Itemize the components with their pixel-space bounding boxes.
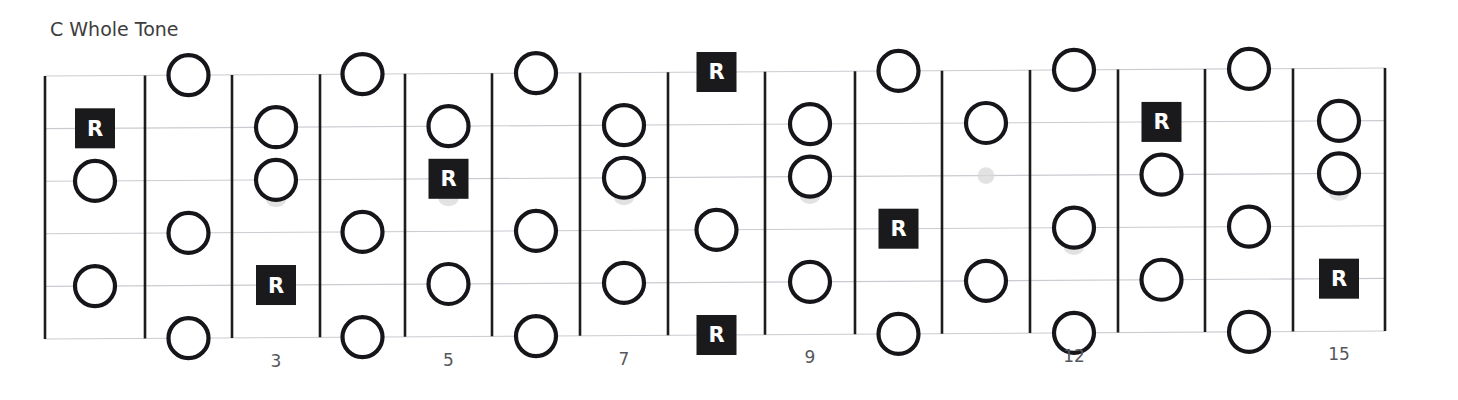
root-letter: R xyxy=(1331,267,1347,291)
scale-note-marker-s3-f3[interactable] xyxy=(256,160,296,200)
scale-note-marker-s4-f2[interactable] xyxy=(169,213,209,253)
scale-note-marker-s5-f11[interactable] xyxy=(966,261,1006,301)
string-line-3 xyxy=(45,173,1385,181)
root-note-marker-s5-f15[interactable]: R xyxy=(1319,259,1359,299)
scale-note-marker-s2-f3[interactable] xyxy=(256,107,296,147)
root-letter: R xyxy=(87,117,103,141)
root-note-marker-s3-f5[interactable]: R xyxy=(429,159,469,199)
fret-number-label-7: 7 xyxy=(619,349,630,369)
root-letter: R xyxy=(890,217,906,241)
string-line-2 xyxy=(45,121,1385,129)
string-line-5 xyxy=(45,278,1385,286)
scale-note-marker-s4-f4[interactable] xyxy=(343,212,383,252)
fret-wires-group xyxy=(45,68,1385,339)
fret-number-label-5: 5 xyxy=(443,350,454,370)
scale-note-marker-s1-f6[interactable] xyxy=(516,53,556,93)
scale-note-marker-s3-f9[interactable] xyxy=(790,157,830,197)
scale-note-marker-s3-f1[interactable] xyxy=(75,161,115,201)
root-letter: R xyxy=(1153,110,1169,134)
scale-note-marker-s5-f7[interactable] xyxy=(604,263,644,303)
root-letter: R xyxy=(440,167,456,191)
scale-note-marker-s5-f5[interactable] xyxy=(429,264,469,304)
root-note-marker-s2-f1[interactable]: R xyxy=(75,108,115,148)
scale-note-marker-s2-f7[interactable] xyxy=(604,105,644,145)
scale-note-marker-s6-f2[interactable] xyxy=(169,318,209,358)
scale-note-marker-s6-f14[interactable] xyxy=(1229,312,1269,352)
root-note-marker-s2-f13[interactable]: R xyxy=(1142,102,1182,142)
scale-note-marker-s3-f15[interactable] xyxy=(1319,153,1359,193)
scale-note-marker-s6-f10[interactable] xyxy=(879,314,919,354)
scale-note-marker-s6-f4[interactable] xyxy=(343,317,383,357)
scale-note-marker-s4-f8[interactable] xyxy=(697,210,737,250)
scale-note-marker-s4-f12[interactable] xyxy=(1054,208,1094,248)
scale-note-marker-s3-f7[interactable] xyxy=(604,158,644,198)
scale-note-marker-s4-f14[interactable] xyxy=(1229,207,1269,247)
root-note-marker-s1-f8[interactable]: R xyxy=(697,52,737,92)
faint-note-dot[interactable] xyxy=(978,167,995,184)
scale-note-marker-s1-f12[interactable] xyxy=(1054,50,1094,90)
fret-number-label-9: 9 xyxy=(805,347,816,367)
root-note-marker-s6-f8[interactable]: R xyxy=(697,315,737,355)
scale-note-marker-s2-f5[interactable] xyxy=(429,106,469,146)
scale-note-marker-s5-f13[interactable] xyxy=(1142,260,1182,300)
root-note-marker-s4-f10[interactable]: R xyxy=(879,209,919,249)
root-note-marker-s5-f3[interactable]: R xyxy=(256,265,296,305)
page-title: C Whole Tone xyxy=(50,18,179,40)
scale-note-marker-s1-f4[interactable] xyxy=(343,54,383,94)
scale-note-marker-s3-f13[interactable] xyxy=(1142,155,1182,195)
scale-note-marker-s2-f9[interactable] xyxy=(790,104,830,144)
fret-number-label-12: 12 xyxy=(1063,346,1085,366)
root-letter: R xyxy=(708,323,724,347)
fret-number-label-3: 3 xyxy=(271,351,282,371)
scale-note-marker-s1-f2[interactable] xyxy=(169,55,209,95)
fretboard-diagram: C Whole Tone RRRRRRRR 35791215 xyxy=(0,0,1458,400)
scale-note-marker-s2-f15[interactable] xyxy=(1319,101,1359,141)
scale-note-marker-s5-f9[interactable] xyxy=(790,262,830,302)
fret-number-labels-group: 35791215 xyxy=(271,344,1350,370)
fret-number-label-15: 15 xyxy=(1328,344,1350,364)
scale-note-marker-s2-f11[interactable] xyxy=(966,103,1006,143)
scale-note-marker-s1-f14[interactable] xyxy=(1229,49,1269,89)
scale-note-marker-s1-f10[interactable] xyxy=(879,51,919,91)
strings-group xyxy=(45,68,1385,339)
root-letter: R xyxy=(708,60,724,84)
scale-note-marker-s5-f1[interactable] xyxy=(75,266,115,306)
scale-note-marker-s6-f6[interactable] xyxy=(516,316,556,356)
root-letter: R xyxy=(268,274,284,298)
scale-note-marker-s4-f6[interactable] xyxy=(516,211,556,251)
